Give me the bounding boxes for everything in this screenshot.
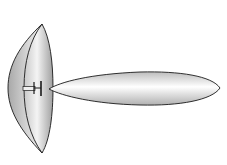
antenna-diagram bbox=[0, 0, 227, 165]
radiation-lobe bbox=[49, 72, 220, 105]
feed-arm bbox=[23, 87, 35, 91]
